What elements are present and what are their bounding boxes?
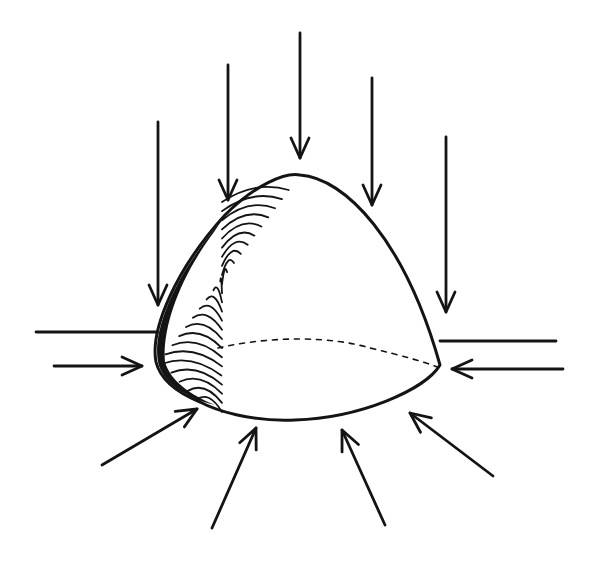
shading-hatch xyxy=(157,187,289,412)
hatch-line xyxy=(186,324,222,339)
force-arrows xyxy=(54,33,563,528)
force-arrow-icon xyxy=(149,122,167,305)
arrow-shaft xyxy=(410,413,493,476)
force-arrow-icon xyxy=(437,137,455,312)
hatch-line xyxy=(193,315,222,330)
dome-compression-diagram xyxy=(0,0,592,565)
hatch-line xyxy=(220,278,222,293)
arrow-head xyxy=(175,409,197,427)
arrow-shaft xyxy=(212,428,256,528)
arrow-shaft xyxy=(342,430,385,525)
hatch-line xyxy=(222,223,261,238)
force-arrow-icon xyxy=(410,413,493,476)
dome-shape xyxy=(155,175,440,421)
diagram-canvas xyxy=(0,0,592,565)
hatch-line xyxy=(222,205,275,220)
hatch-line xyxy=(172,342,222,357)
arrow-shaft xyxy=(102,409,197,465)
force-arrow-icon xyxy=(452,360,563,378)
force-arrow-icon xyxy=(342,430,385,525)
force-arrow-icon xyxy=(102,409,197,465)
force-arrow-icon xyxy=(363,78,381,205)
force-arrow-icon xyxy=(54,357,142,375)
force-arrow-icon xyxy=(219,65,237,200)
force-arrow-icon xyxy=(291,33,309,158)
dome-outline xyxy=(155,175,440,421)
hatch-line xyxy=(165,351,222,366)
hidden-equator-dashed-line xyxy=(218,339,440,368)
force-arrow-icon xyxy=(212,428,256,528)
hatch-line xyxy=(179,333,222,348)
hatch-line xyxy=(222,233,255,248)
